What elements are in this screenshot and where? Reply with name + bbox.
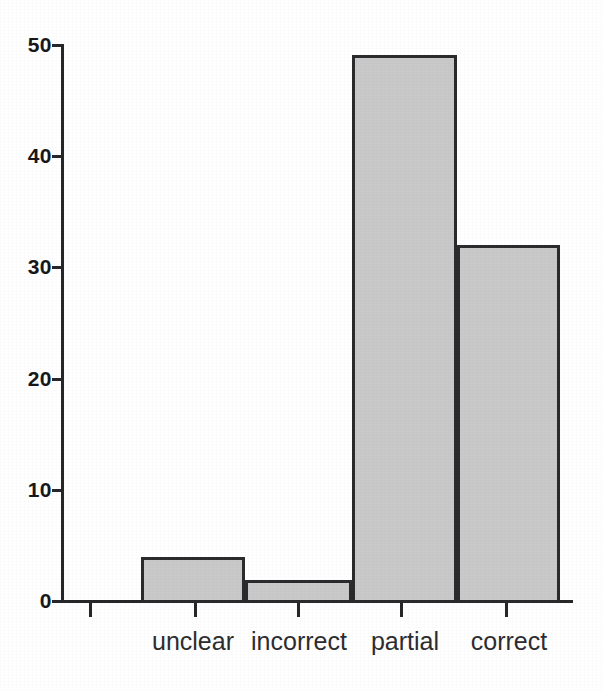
y-tick-label-0: 0 bbox=[6, 590, 52, 611]
y-tick-20 bbox=[52, 378, 62, 381]
category-label-correct: correct bbox=[419, 628, 599, 656]
bar-chart: 01020304050 unclearincorrectpartialcorre… bbox=[0, 0, 603, 691]
y-tick-10 bbox=[52, 489, 62, 492]
y-tick-label-30: 30 bbox=[6, 256, 52, 277]
y-tick-label-10: 10 bbox=[6, 479, 52, 500]
y-tick-30 bbox=[52, 266, 62, 269]
y-tick-label-20: 20 bbox=[6, 368, 52, 389]
plot-area: 01020304050 unclearincorrectpartialcorre… bbox=[0, 0, 603, 691]
bar-unclear bbox=[141, 557, 245, 603]
x-tick-2 bbox=[297, 603, 300, 617]
y-tick-label-50: 50 bbox=[6, 34, 52, 55]
bar-partial bbox=[352, 55, 457, 603]
bar-correct bbox=[457, 245, 560, 603]
x-tick-0 bbox=[89, 603, 92, 617]
y-tick-label-40: 40 bbox=[6, 145, 52, 166]
y-tick-50 bbox=[52, 44, 62, 47]
bar-incorrect bbox=[245, 580, 352, 603]
x-tick-4 bbox=[505, 603, 508, 617]
y-axis-line bbox=[61, 44, 64, 603]
x-tick-3 bbox=[400, 603, 403, 617]
x-tick-1 bbox=[194, 603, 197, 617]
y-tick-0 bbox=[52, 600, 62, 603]
y-tick-40 bbox=[52, 155, 62, 158]
